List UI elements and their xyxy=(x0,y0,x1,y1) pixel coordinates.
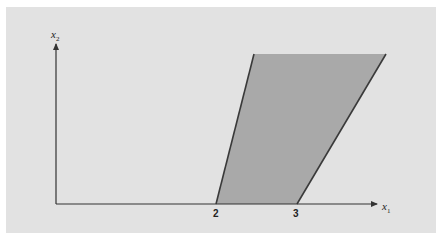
x1-axis-label: x1 xyxy=(381,200,391,215)
tick-label-2: 2 xyxy=(213,208,219,219)
feasible-region xyxy=(216,54,386,204)
tick-label-3: 3 xyxy=(293,208,299,219)
x2-axis-label: x2 xyxy=(50,28,60,43)
diagram-canvas: x2 x1 2 3 xyxy=(0,0,443,240)
